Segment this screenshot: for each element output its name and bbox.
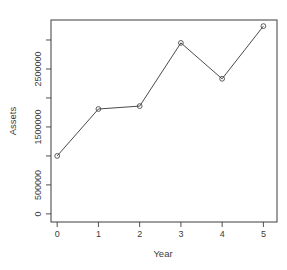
y-axis-ticks: 050000015000002500000 — [33, 40, 52, 216]
assets-line-chart: 012345 050000015000002500000 Year Assets — [0, 0, 287, 270]
data-point — [55, 154, 60, 159]
y-tick-label: 2500000 — [33, 51, 43, 86]
data-series — [55, 24, 266, 159]
x-axis-label: Year — [153, 248, 172, 259]
plot-box — [51, 20, 277, 222]
x-tick-label: 1 — [96, 229, 101, 239]
x-tick-label: 2 — [137, 229, 142, 239]
y-tick-label: 0 — [33, 211, 43, 216]
x-tick-label: 5 — [261, 229, 266, 239]
figure: 012345 050000015000002500000 Year Assets — [0, 0, 287, 270]
y-tick-label: 1500000 — [33, 109, 43, 144]
y-axis-label: Assets — [7, 106, 18, 135]
x-tick-label: 4 — [220, 229, 225, 239]
y-tick-label: 500000 — [33, 170, 43, 200]
x-tick-label: 0 — [55, 229, 60, 239]
x-tick-label: 3 — [178, 229, 183, 239]
series-line — [57, 26, 263, 156]
x-axis-ticks: 012345 — [55, 222, 266, 239]
